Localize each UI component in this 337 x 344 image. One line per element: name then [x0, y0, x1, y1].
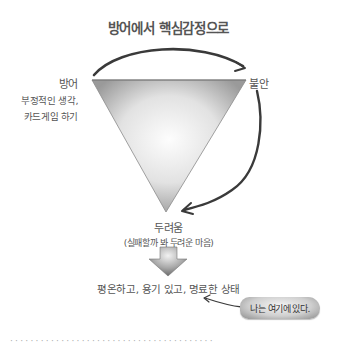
- fear-label: 두려움: [0, 219, 337, 235]
- diagram-title: 방어에서 핵심감정으로: [0, 17, 337, 37]
- callout-bubble: 나는 여기에 있다.: [240, 297, 320, 319]
- anxiety-label: 불안: [249, 75, 268, 91]
- down-arrow-icon: [149, 247, 187, 276]
- defense-example: 카드게임 하기: [21, 109, 78, 125]
- fear-description: (실패할까 봐 두려운 마음): [0, 236, 337, 249]
- result-state-label: 평온하고, 용기 있고, 명료한 상태: [0, 281, 337, 296]
- callout-text: 나는 여기에 있다.: [250, 302, 310, 315]
- cutoff-text: · · · · · · · · · · · · · · · · · · · · …: [10, 336, 330, 344]
- defense-label: 방어: [59, 75, 78, 91]
- pointer-arrow: [205, 298, 242, 307]
- arc-arrow-defense-to-anxiety: [94, 49, 243, 75]
- inverted-triangle: [92, 80, 246, 212]
- defense-examples: 부정적인 생각, 카드게임 하기: [21, 93, 78, 125]
- defense-example: 부정적인 생각,: [21, 93, 78, 109]
